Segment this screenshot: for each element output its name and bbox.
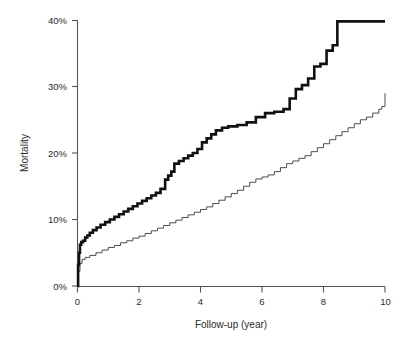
series-line-high-risk xyxy=(78,21,386,286)
y-axis-ticks xyxy=(72,21,78,287)
x-tick-label-0: 0 xyxy=(75,296,80,307)
y-tick-label-10: 10% xyxy=(48,214,68,225)
chart-figure: 40% 30% 20% 10% 0% 0 2 4 6 8 10 Mortalit… xyxy=(0,0,410,341)
x-axis-title: Follow-up (year) xyxy=(195,319,267,330)
mortality-followup-chart: 40% 30% 20% 10% 0% 0 2 4 6 8 10 Mortalit… xyxy=(0,0,410,341)
x-tick-label-8: 8 xyxy=(321,296,326,307)
x-axis-ticks xyxy=(78,287,386,293)
x-tick-label-10: 10 xyxy=(380,296,391,307)
x-tick-label-6: 6 xyxy=(259,296,264,307)
x-tick-label-2: 2 xyxy=(136,296,141,307)
series-line-low-risk xyxy=(78,93,386,286)
y-tick-label-20: 20% xyxy=(48,148,68,159)
y-tick-label-40: 40% xyxy=(48,15,68,26)
y-axis-title: Mortality xyxy=(19,134,30,172)
y-tick-label-0: 0% xyxy=(53,281,67,292)
x-tick-label-4: 4 xyxy=(198,296,203,307)
y-tick-label-30: 30% xyxy=(48,81,68,92)
